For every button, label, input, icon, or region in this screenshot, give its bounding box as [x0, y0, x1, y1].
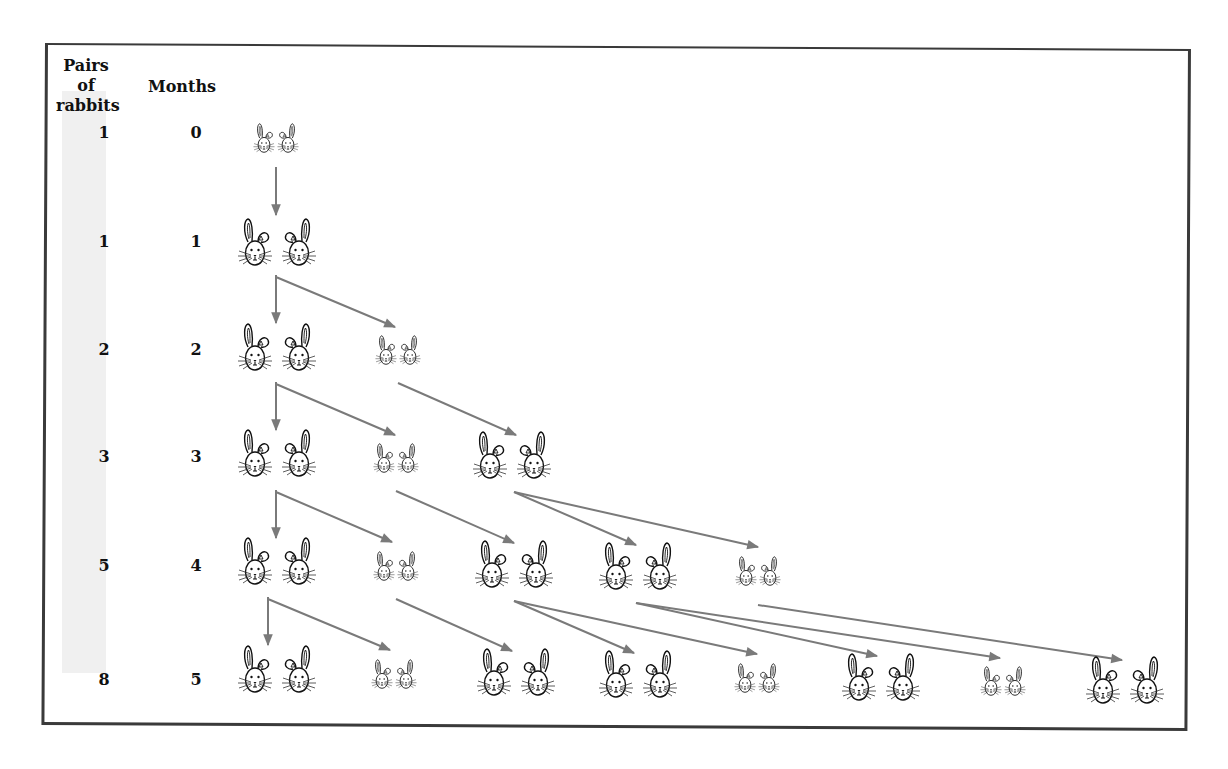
adult-rabbit-pair: [599, 651, 677, 697]
young-rabbit-pair: [375, 336, 420, 365]
rabbit-head-icon: [282, 430, 316, 476]
rabbit-tree: [0, 0, 1228, 769]
young-rabbit-pair: [735, 557, 780, 586]
rabbit-head-icon: [473, 432, 507, 478]
young-rabbit-pair: [253, 124, 298, 153]
arrow: [276, 490, 392, 542]
rabbit-head-icon: [277, 124, 298, 153]
arrow: [636, 603, 877, 656]
adult-rabbit-pair: [238, 646, 316, 692]
arrow: [758, 605, 1122, 660]
rabbit-head-icon: [477, 649, 511, 695]
rabbit-head-icon: [643, 543, 677, 589]
rabbit-head-icon: [735, 557, 756, 586]
rabbit-head-icon: [373, 444, 394, 473]
rabbit-head-icon: [253, 124, 274, 153]
rabbit-head-icon: [282, 219, 316, 265]
rabbit-pairs-layer: [238, 124, 1164, 703]
adult-rabbit-pair: [1086, 657, 1164, 703]
rabbit-head-icon: [886, 654, 920, 700]
rabbit-head-icon: [282, 538, 316, 584]
young-rabbit-pair: [373, 552, 418, 581]
rabbit-head-icon: [373, 552, 394, 581]
arrow: [636, 603, 1000, 658]
adult-rabbit-pair: [238, 324, 316, 370]
rabbit-head-icon: [475, 541, 509, 587]
young-rabbit-pair: [980, 667, 1025, 696]
adult-rabbit-pair: [238, 430, 316, 476]
rabbit-head-icon: [397, 444, 418, 473]
rabbit-head-icon: [842, 654, 876, 700]
arrows-layer: [268, 167, 1122, 660]
arrow: [514, 492, 636, 545]
rabbit-head-icon: [282, 646, 316, 692]
rabbit-head-icon: [759, 557, 780, 586]
adult-rabbit-pair: [238, 219, 316, 265]
adult-rabbit-pair: [475, 541, 553, 587]
young-rabbit-pair: [373, 444, 418, 473]
adult-rabbit-pair: [477, 649, 555, 695]
rabbit-head-icon: [1004, 667, 1025, 696]
young-rabbit-pair: [734, 664, 779, 693]
adult-rabbit-pair: [842, 654, 920, 700]
adult-rabbit-pair: [238, 538, 316, 584]
rabbit-head-icon: [599, 651, 633, 697]
rabbit-head-icon: [395, 660, 416, 689]
rabbit-head-icon: [980, 667, 1001, 696]
arrow: [276, 275, 395, 327]
rabbit-head-icon: [238, 219, 272, 265]
adult-rabbit-pair: [473, 432, 551, 478]
rabbit-head-icon: [238, 430, 272, 476]
arrow: [276, 382, 395, 435]
rabbit-head-icon: [397, 552, 418, 581]
arrow: [268, 597, 390, 650]
rabbit-head-icon: [375, 336, 396, 365]
arrow: [514, 492, 758, 547]
rabbit-head-icon: [399, 336, 420, 365]
arrow: [396, 491, 514, 543]
rabbit-head-icon: [599, 543, 633, 589]
young-rabbit-pair: [371, 660, 416, 689]
rabbit-head-icon: [734, 664, 755, 693]
adult-rabbit-pair: [599, 543, 677, 589]
rabbit-head-icon: [758, 664, 779, 693]
rabbit-head-icon: [282, 324, 316, 370]
arrow: [398, 383, 516, 435]
arrow: [396, 599, 512, 651]
rabbit-head-icon: [238, 538, 272, 584]
rabbit-head-icon: [371, 660, 392, 689]
rabbit-head-icon: [1130, 657, 1164, 703]
arrow: [514, 601, 634, 653]
arrow: [514, 601, 757, 654]
diagram-frame: Pairs of rabbits Months 101122335485: [0, 0, 1228, 769]
rabbit-head-icon: [517, 432, 551, 478]
rabbit-head-icon: [643, 651, 677, 697]
rabbit-head-icon: [521, 649, 555, 695]
rabbit-head-icon: [238, 646, 272, 692]
rabbit-head-icon: [238, 324, 272, 370]
rabbit-head-icon: [1086, 657, 1120, 703]
rabbit-head-icon: [519, 541, 553, 587]
